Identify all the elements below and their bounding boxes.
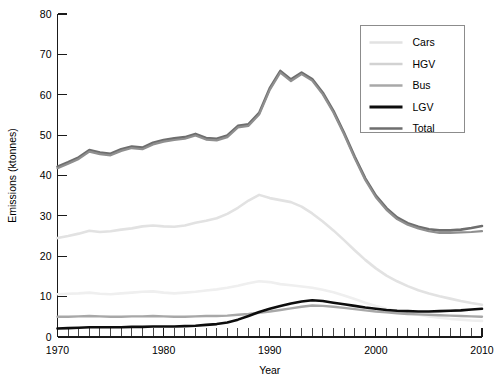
x-tick-label: 1970 bbox=[46, 344, 70, 356]
emissions-line-chart: 01020304050607080 19701980199020002010 Y… bbox=[0, 0, 499, 379]
x-axis-title: Year bbox=[259, 364, 281, 376]
legend-label-total[interactable]: Total bbox=[413, 122, 435, 134]
x-tick-label: 1980 bbox=[152, 344, 176, 356]
y-tick-label: 70 bbox=[40, 48, 52, 60]
y-tick-label: 50 bbox=[40, 129, 52, 141]
y-tick-label: 80 bbox=[40, 8, 52, 20]
x-tick-label: 2000 bbox=[364, 344, 388, 356]
y-axis-title: Emissions (ktonnes) bbox=[6, 128, 18, 223]
major-yticks bbox=[58, 14, 67, 337]
y-tick-labels: 01020304050607080 bbox=[40, 8, 52, 343]
legend-label-hgv[interactable]: HGV bbox=[413, 58, 436, 70]
legend[interactable]: CarsHGVBusLGVTotal bbox=[361, 26, 465, 135]
series-line-cars bbox=[58, 195, 483, 305]
chart-canvas: 01020304050607080 19701980199020002010 Y… bbox=[0, 0, 499, 379]
legend-label-lgv[interactable]: LGV bbox=[413, 101, 434, 113]
y-tick-label: 60 bbox=[40, 89, 52, 101]
legend-label-cars[interactable]: Cars bbox=[413, 36, 435, 48]
x-tick-labels: 19701980199020002010 bbox=[46, 344, 494, 356]
y-tick-label: 30 bbox=[40, 210, 52, 222]
legend-label-bus[interactable]: Bus bbox=[413, 79, 431, 91]
y-tick-label: 10 bbox=[40, 290, 52, 302]
y-tick-label: 40 bbox=[40, 169, 52, 181]
y-tick-label: 0 bbox=[46, 331, 52, 343]
x-tick-label: 2010 bbox=[470, 344, 494, 356]
x-tick-label: 1990 bbox=[258, 344, 282, 356]
y-tick-label: 20 bbox=[40, 250, 52, 262]
